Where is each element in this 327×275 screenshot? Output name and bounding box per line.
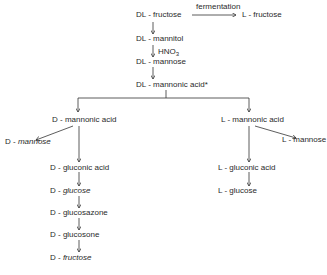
l-glucose-node: L - glucose xyxy=(218,186,257,196)
d-gluconic-acid-node: D - gluconic acid xyxy=(50,163,109,173)
l-mannose-node: L - mannose xyxy=(282,135,326,145)
d-mannonic-acid-node: D - mannonic acid xyxy=(52,115,116,125)
d-fructose-node: D - fructose xyxy=(50,253,91,263)
fermentation-label: fermentation xyxy=(196,2,240,12)
l-fructose-node: L - fructose xyxy=(242,10,282,20)
l-mannonic-acid-node: L - mannonic acid xyxy=(221,115,284,125)
d-mannose-node: D - mannose xyxy=(5,137,51,147)
dl-mannose-node: DL - mannose xyxy=(136,57,186,67)
dl-mannonic-acid-node: DL - mannonic acid* xyxy=(136,80,208,90)
d-glucosazone-node: D - glucosazone xyxy=(50,208,108,218)
d-glucose-node: D - glucose xyxy=(50,186,90,196)
d-glucosone-node: D - glucosone xyxy=(50,230,99,240)
l-gluconic-acid-node: L - gluconic acid xyxy=(218,163,276,173)
dl-fructose-node: DL - fructose xyxy=(136,10,182,20)
dl-mannitol-node: DL - mannitol xyxy=(136,34,183,44)
